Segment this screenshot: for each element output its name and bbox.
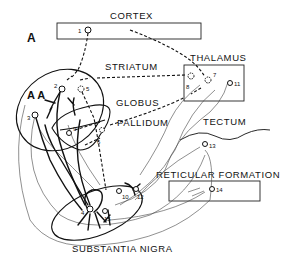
cortex-label: CORTEX bbox=[110, 10, 153, 21]
secondary-label: A A bbox=[27, 89, 45, 101]
neuron-8-label: 8 bbox=[186, 84, 190, 90]
neuron-9 bbox=[67, 131, 72, 136]
neuron-7 bbox=[205, 77, 211, 83]
neuron-10 bbox=[117, 189, 122, 194]
substantia-nigra-label: SUBSTANTIA NIGRA bbox=[72, 243, 173, 254]
neuron-5-label: 5 bbox=[86, 86, 90, 92]
neuron-4 bbox=[87, 206, 93, 212]
neuron-8 bbox=[188, 73, 194, 79]
axon-4-up bbox=[45, 125, 88, 205]
panel-label: A bbox=[27, 31, 36, 45]
neuron-7-label: 7 bbox=[213, 72, 217, 78]
neuron-2-label: 2 bbox=[54, 83, 58, 89]
neuron-1-label: 1 bbox=[78, 28, 82, 34]
neuron-6-label: 6 bbox=[97, 139, 101, 145]
neuron-2 bbox=[59, 86, 65, 92]
neuron-12 bbox=[134, 187, 139, 192]
neuron-4-label: 4 bbox=[81, 210, 85, 216]
neuron-14 bbox=[210, 187, 215, 192]
tectum-outline bbox=[180, 130, 270, 141]
reticular-formation-label: RETICULAR FORMATION bbox=[156, 169, 280, 180]
projection-striatum-thalamus bbox=[97, 75, 185, 78]
neuron-13 bbox=[203, 142, 208, 147]
neuron-5 bbox=[78, 86, 84, 92]
neuron-10-label: 10 bbox=[122, 194, 129, 200]
pallidum-segment-line bbox=[60, 120, 105, 130]
tectum-label: TECTUM bbox=[203, 116, 246, 127]
neuron-1 bbox=[85, 27, 91, 33]
neuron-6-upper bbox=[100, 128, 105, 133]
thalamus-label: THALAMUS bbox=[190, 52, 247, 63]
neuron-11 bbox=[228, 81, 233, 86]
reticular-terminal bbox=[188, 188, 204, 196]
fiber-3 bbox=[40, 130, 95, 190]
globus-label: GLOBUS bbox=[116, 97, 159, 108]
neuron-13-label: 13 bbox=[209, 143, 216, 149]
basal-ganglia-diagram: A CORTEX THALAMUS RETICULAR FORMATION TE… bbox=[0, 0, 283, 266]
neuron-12-label: 12 bbox=[137, 194, 144, 200]
neuron-11-label: 11 bbox=[234, 81, 241, 87]
pallidum-label: PALLIDUM bbox=[117, 117, 169, 128]
neuron-15 bbox=[103, 209, 108, 214]
neuron-15-label: 15 bbox=[104, 216, 111, 222]
fiber-9 bbox=[68, 125, 100, 185]
neuron-14-label: 14 bbox=[216, 187, 223, 193]
neuron-3 bbox=[32, 112, 38, 118]
neuron-3-label: 3 bbox=[27, 115, 31, 121]
projection-terminals bbox=[67, 76, 90, 80]
axon-2 bbox=[57, 92, 85, 205]
striatum-label: STRIATUM bbox=[105, 61, 158, 72]
